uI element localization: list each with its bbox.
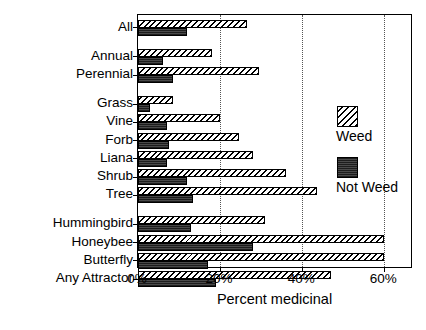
category-label-any-attractor: Any Attractor xyxy=(56,271,133,284)
bar-not-weed-butterfly xyxy=(138,261,208,269)
category-label-liana: Liana xyxy=(100,151,133,164)
x-tick-label-0: 0% xyxy=(127,272,147,286)
bar-weed-shrub xyxy=(138,169,286,177)
bar-weed-forb xyxy=(138,133,239,141)
bar-not-weed-hummingbird xyxy=(138,224,191,232)
bar-weed-honeybee xyxy=(138,235,384,243)
category-label-tree: Tree xyxy=(106,187,133,200)
category-label-perennial: Perennial xyxy=(76,67,133,80)
bar-not-weed-perennial xyxy=(138,75,173,83)
bar-weed-tree xyxy=(138,187,317,195)
x-axis-title: Percent medicinal xyxy=(137,291,412,307)
legend-swatch-not-weed-icon xyxy=(337,157,358,178)
legend-swatch-weed-icon xyxy=(337,106,358,127)
bar-not-weed-any-attractor xyxy=(138,279,216,287)
bar-not-weed-forb xyxy=(138,141,169,149)
category-label-grass: Grass xyxy=(97,96,133,109)
category-label-honeybee: Honeybee xyxy=(71,235,133,248)
bar-weed-liana xyxy=(138,151,253,159)
legend-label-not-weed: Not Weed xyxy=(336,179,422,195)
bar-not-weed-honeybee xyxy=(138,243,253,251)
bar-weed-butterfly xyxy=(138,253,384,261)
x-tick-label-40: 40% xyxy=(288,272,315,286)
bar-not-weed-shrub xyxy=(138,177,187,185)
bar-not-weed-annual xyxy=(138,57,163,65)
category-label-forb: Forb xyxy=(105,133,133,146)
percent-medicinal-bar-chart: AllAnnualPerennialGrassVineForbLianaShru… xyxy=(0,0,426,330)
gridline-20 xyxy=(220,15,221,267)
bar-not-weed-all xyxy=(138,28,187,36)
bar-not-weed-grass xyxy=(138,104,150,112)
legend-entry-not-weed: Not Weed xyxy=(336,157,422,195)
category-label-vine: Vine xyxy=(106,114,133,127)
category-label-butterfly: Butterfly xyxy=(83,253,133,266)
chart-legend: Weed Not Weed xyxy=(336,106,422,208)
legend-entry-weed: Weed xyxy=(336,106,422,144)
category-label-shrub: Shrub xyxy=(97,169,133,182)
category-axis-labels: AllAnnualPerennialGrassVineForbLianaShru… xyxy=(0,14,133,268)
bar-weed-vine xyxy=(138,114,220,122)
bar-weed-perennial xyxy=(138,67,259,75)
bar-weed-hummingbird xyxy=(138,216,265,224)
x-tick-label-60: 60% xyxy=(370,272,397,286)
bar-weed-all xyxy=(138,20,247,28)
x-tick-label-20: 20% xyxy=(206,272,233,286)
bar-weed-grass xyxy=(138,96,173,104)
bar-not-weed-liana xyxy=(138,159,167,167)
gridline-40 xyxy=(302,15,303,267)
category-label-all: All xyxy=(118,20,133,33)
bar-not-weed-vine xyxy=(138,122,167,130)
category-label-annual: Annual xyxy=(91,49,133,62)
category-label-hummingbird: Hummingbird xyxy=(53,216,133,229)
bar-weed-annual xyxy=(138,49,212,57)
legend-label-weed: Weed xyxy=(336,128,422,144)
bar-not-weed-tree xyxy=(138,195,193,203)
